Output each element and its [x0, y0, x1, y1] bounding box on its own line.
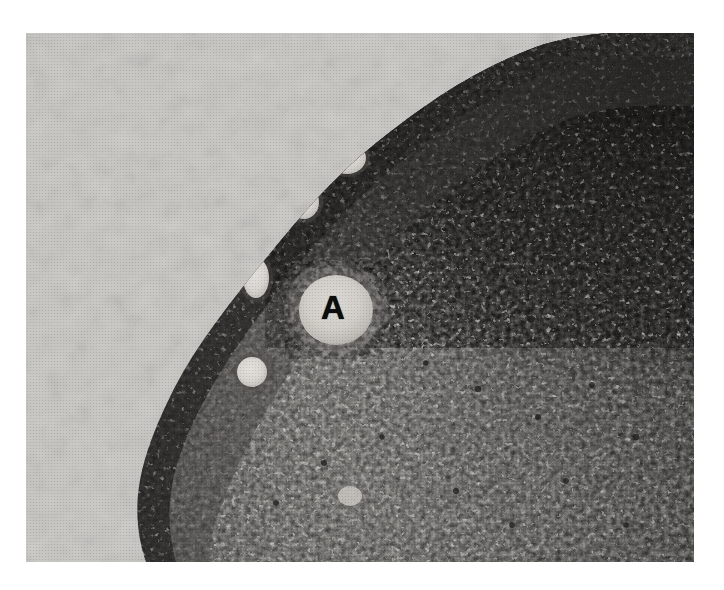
print-grain	[26, 33, 694, 562]
figure-page: A	[0, 0, 724, 590]
label-a: A	[318, 291, 348, 325]
photomicrograph-plate	[26, 33, 694, 562]
micrograph-canvas	[26, 33, 694, 562]
